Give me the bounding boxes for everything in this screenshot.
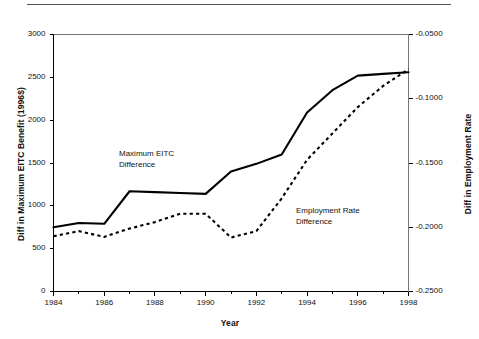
x-tick-label-1994: 1994 xyxy=(287,298,327,307)
y-axis-left-title: Diff in Maximum EITC Benefit (1996$) xyxy=(16,54,26,274)
x-tick-label-1996: 1996 xyxy=(338,298,378,307)
right-tick-label--0.2000: -0.2000 xyxy=(416,222,462,231)
figure-container: 050010001500200025003000 -0.2500-0.2000-… xyxy=(0,0,479,339)
x-tick-label-1992: 1992 xyxy=(236,298,276,307)
x-tick-label-1984: 1984 xyxy=(34,298,74,307)
y-axis-right-title: Diff in Employment Rate xyxy=(463,54,473,274)
x-tick-label-1990: 1990 xyxy=(186,298,226,307)
right-tick-label--0.2500: -0.2500 xyxy=(416,286,462,295)
left-axis-ticks xyxy=(50,35,54,292)
annotation-employment-rate-difference: Employment Rate Difference xyxy=(296,205,360,227)
x-tick-label-1988: 1988 xyxy=(135,298,175,307)
x-axis-title: Year xyxy=(180,318,280,328)
left-tick-label-0: 0 xyxy=(6,286,46,295)
right-tick-label--0.1500: -0.1500 xyxy=(416,158,462,167)
axis-spines xyxy=(54,35,409,292)
annotation-maximum-eitc-difference: Maximum EITC Difference xyxy=(119,148,174,170)
series-line-maximum-eitc-difference xyxy=(54,72,409,227)
plot-area: 050010001500200025003000 -0.2500-0.2000-… xyxy=(0,0,479,339)
chart-svg xyxy=(0,0,479,339)
right-tick-label--0.1000: -0.1000 xyxy=(416,93,462,102)
x-tick-label-1986: 1986 xyxy=(84,298,124,307)
caption-remnant xyxy=(22,331,452,338)
x-tick-label-1998: 1998 xyxy=(389,298,429,307)
left-tick-label-3000: 3000 xyxy=(6,29,46,38)
x-axis-ticks xyxy=(54,292,409,296)
right-tick-label--0.0500: -0.0500 xyxy=(416,29,462,38)
